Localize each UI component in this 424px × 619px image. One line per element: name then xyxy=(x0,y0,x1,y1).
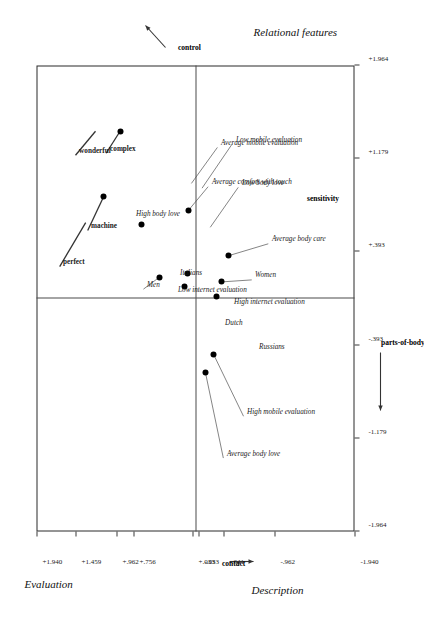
pole-label-parts-of-body: parts-of-body xyxy=(381,337,424,346)
axis-title-evaluation: Evaluation xyxy=(24,577,72,589)
axis-title-relational-features: Relational features xyxy=(253,25,337,37)
pole-label-sensitivity: sensitivity xyxy=(307,193,339,202)
parts-of-body-pole-arrow-head xyxy=(378,405,382,410)
pole-label-control: control xyxy=(178,42,201,51)
pole-label-contact: contact xyxy=(222,558,245,567)
axis-title-description: Description xyxy=(251,583,303,595)
contact-pole-arrow-head xyxy=(248,559,253,563)
